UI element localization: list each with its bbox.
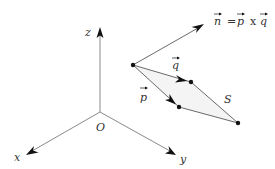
y-axis [100, 112, 170, 151]
equation-equals: = [227, 15, 236, 28]
x-axis-arrow-icon [26, 146, 39, 155]
vector-n-arrow-icon [192, 24, 205, 33]
cross-product-equation: n = p x q [214, 13, 268, 29]
region-s-label: S [224, 93, 232, 106]
coordinate-axes [26, 27, 176, 155]
svg-text:p: p [140, 91, 147, 104]
vector-n [133, 28, 198, 65]
x-axis-label: x [14, 151, 21, 164]
far-corner-point [236, 121, 240, 125]
z-axis-label: z [84, 26, 91, 39]
y-axis-arrow-icon [165, 146, 176, 155]
p-endpoint [177, 105, 181, 109]
svg-text:q: q [172, 59, 179, 72]
equation-q: q [260, 15, 267, 28]
y-axis-label: y [179, 153, 187, 166]
equation-n: n [214, 15, 221, 28]
base-point [131, 63, 135, 67]
q-endpoint [189, 80, 193, 84]
q-label: q [172, 57, 180, 73]
equation-times: x [250, 15, 257, 28]
parallelogram-region [133, 65, 238, 123]
x-axis [32, 112, 100, 151]
origin-label: O [96, 121, 105, 134]
cross-product-diagram: z x y O q p S n = p x q [0, 0, 275, 169]
p-label: p [140, 87, 148, 105]
equation-p: p [237, 15, 244, 28]
